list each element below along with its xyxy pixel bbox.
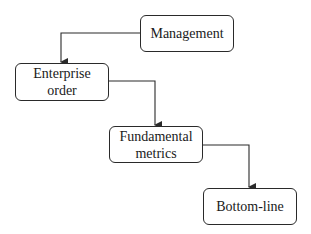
node-management: Management xyxy=(140,15,234,52)
node-fundamental-metrics: Fundamental metrics xyxy=(109,126,203,163)
node-bottom-line: Bottom-line xyxy=(203,188,297,225)
edge-management-to-enterprise xyxy=(61,33,140,62)
node-fundamental-metrics-label: Fundamental metrics xyxy=(116,128,196,162)
node-bottom-line-label: Bottom-line xyxy=(216,198,284,215)
node-enterprise-order: Enterprise order xyxy=(15,63,109,101)
node-management-label: Management xyxy=(150,25,223,42)
node-enterprise-order-label: Enterprise order xyxy=(27,65,97,99)
edge-fundamental-to-bottomline xyxy=(203,145,249,187)
edge-enterprise-to-fundamental xyxy=(108,81,155,125)
